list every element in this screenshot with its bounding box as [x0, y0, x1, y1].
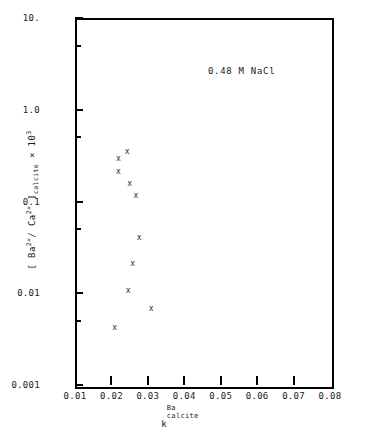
x-axis-tick — [220, 376, 222, 385]
data-point-marker: x — [127, 180, 132, 188]
y-axis-tick-label: 10. — [23, 14, 40, 23]
data-point-marker: x — [137, 234, 142, 242]
y-axis-title-base: 10 — [27, 135, 37, 147]
y-axis-title-ca: Ca — [27, 214, 37, 226]
x-axis-tick — [147, 376, 149, 385]
y-axis-title-subscript: calcite — [32, 164, 40, 194]
x-axis-tick-label: 0.07 — [282, 392, 305, 401]
y-axis-tick-minor — [75, 136, 81, 138]
data-point-marker: x — [125, 148, 130, 156]
x-axis-tick-label: 0.04 — [173, 392, 196, 401]
y-axis-tick-major — [75, 292, 83, 294]
x-axis-tick-label: 0.01 — [64, 392, 87, 401]
data-point-marker: x — [112, 324, 117, 332]
y-axis-tick-major — [75, 201, 83, 203]
y-axis-title-exponent: 3 — [25, 130, 33, 134]
x-axis-tick-label: 0.03 — [136, 392, 159, 401]
x-axis-tick-label: 0.06 — [246, 392, 269, 401]
y-axis-tick-minor — [75, 45, 81, 47]
x-axis-tick-label: 0.02 — [100, 392, 123, 401]
y-axis-title-ca-charge: 2+ — [25, 206, 33, 215]
data-point-marker: x — [130, 260, 135, 268]
y-axis-title-ba-charge: 2+ — [25, 238, 33, 247]
data-point-marker: x — [133, 192, 138, 200]
figure-scatter-plot: xxxxxxxxxx 10.1.00.10.010.001 0.010.020.… — [0, 0, 372, 447]
x-axis-tick — [293, 376, 295, 385]
y-axis-title-slash: / — [27, 232, 37, 238]
y-axis-title-open-bracket: [ — [27, 264, 37, 270]
x-axis-title-superscript: Ba — [167, 405, 176, 412]
y-axis-tick-major — [75, 109, 83, 111]
x-axis-tick — [256, 376, 258, 385]
chart-annotation: 0.48 M NaCl — [208, 66, 275, 76]
x-axis-tick — [110, 376, 112, 385]
x-axis-title: kBacalcite — [0, 409, 372, 430]
data-point-marker: x — [116, 155, 121, 163]
y-axis-tick-major — [75, 384, 83, 386]
x-axis-tick-label: 0.05 — [209, 392, 232, 401]
x-axis-tick — [183, 376, 185, 385]
y-axis-title-close-bracket: ] — [27, 194, 37, 200]
y-axis-title-times: × — [27, 152, 37, 158]
data-point-marker: x — [116, 168, 121, 176]
y-axis-tick-major — [75, 17, 83, 19]
y-axis-tick-label: 0.001 — [11, 381, 40, 390]
y-axis-title: [ Ba2+/ Ca2+ ]calcite × 103 — [27, 50, 37, 350]
x-axis-tick-label: 0.08 — [319, 392, 342, 401]
y-axis-tick-minor — [75, 320, 81, 322]
data-point-marker: x — [126, 287, 131, 295]
data-point-marker: x — [149, 305, 154, 313]
y-axis-tick-minor — [75, 228, 81, 230]
plot-area: xxxxxxxxxx — [75, 18, 330, 385]
x-axis-title-affixes: Bacalcite — [167, 409, 211, 427]
y-axis-title-ba: Ba — [27, 246, 37, 258]
x-axis-title-subscript: calcite — [167, 413, 199, 420]
